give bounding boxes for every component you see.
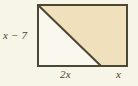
base-right-segment-label: x xyxy=(116,69,121,80)
height-label: x − 7 xyxy=(3,30,27,41)
base-left-segment-label: 2x xyxy=(60,69,71,80)
geometry-figure: x − 7 2x x xyxy=(0,0,138,86)
